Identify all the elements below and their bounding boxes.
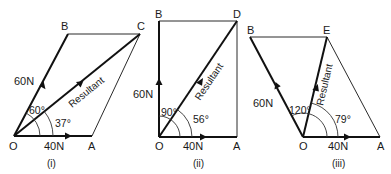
point-label-o: O [9, 140, 18, 152]
figure-iii: B E O A 60N 40N 120° 79° Resultant (iii) [247, 24, 385, 169]
force-label-40n: 40N [44, 140, 64, 152]
point-label-e: E [323, 24, 330, 36]
point-label-a: A [88, 140, 96, 152]
point-label-c: C [137, 20, 145, 32]
angle-label-resultant: 79° [335, 113, 351, 125]
force-label-40n: 40N [328, 140, 348, 152]
arrowhead-icon [156, 78, 163, 85]
figure-caption: (i) [47, 158, 56, 169]
force-label-60n: 60N [133, 88, 153, 100]
point-label-o: O [155, 140, 164, 152]
force-parallelogram-diagrams: B C O A 60N 40N 60° 37° Resultant (i) B … [0, 0, 391, 174]
point-label-b: B [155, 8, 162, 20]
angle-arc-37 [44, 112, 53, 137]
resultant-label: Resultant [314, 63, 334, 107]
point-label-b: B [247, 24, 254, 36]
point-label-a: A [233, 140, 241, 152]
angle-label-resultant: 37° [55, 117, 71, 129]
force-label-60n: 60N [14, 75, 34, 87]
point-label-d: D [233, 8, 241, 20]
point-label-a: A [377, 140, 385, 152]
figure-caption: (ii) [193, 158, 204, 169]
angle-label-resultant: 56° [193, 113, 209, 125]
figure-caption: (iii) [332, 158, 345, 169]
arrowhead-icon [65, 133, 72, 140]
point-label-b: B [61, 20, 68, 32]
angle-label-between: 60° [29, 104, 45, 116]
figure-ii: B D O A 60N 40N 90° 56° Resultant (ii) [133, 8, 241, 169]
figure-i: B C O A 60N 40N 60° 37° Resultant (i) [9, 20, 145, 169]
force-label-40n: 40N [183, 140, 203, 152]
angle-label-between: 120° [289, 104, 311, 116]
force-label-60n: 60N [253, 97, 273, 109]
point-label-o: O [299, 140, 308, 152]
resultant-label: Resultant [66, 74, 106, 109]
angle-arc-79 [311, 103, 338, 137]
angle-label-between: 90° [161, 106, 177, 118]
